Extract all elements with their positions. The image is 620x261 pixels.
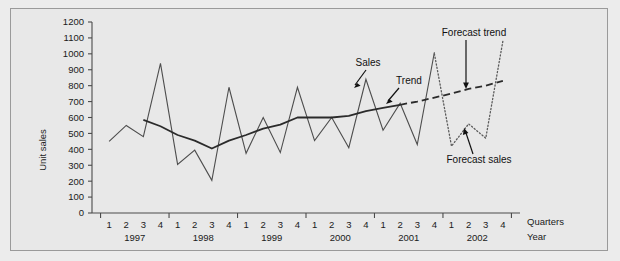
annotation-forecast-trend-label: Forecast trend — [442, 27, 506, 38]
x-axis-quarter-label: 3 — [278, 219, 283, 230]
x-axis-year-label: 2002 — [467, 232, 488, 243]
annotation-forecast-sales-arrow — [466, 133, 473, 154]
y-axis-tick-label: 500 — [68, 128, 84, 139]
x-axis-quarter-label: 4 — [363, 219, 368, 230]
annotation-trend-arrowhead — [386, 99, 393, 104]
y-axis-tick-label: 800 — [68, 80, 84, 91]
x-axis-title-quarters: Quarters — [527, 216, 564, 227]
x-axis-quarter-label: 4 — [158, 219, 163, 230]
x-axis-quarter-label: 1 — [380, 219, 385, 230]
annotation-sales-arrow — [355, 70, 366, 85]
x-axis-quarter-label: 1 — [175, 219, 180, 230]
x-axis-quarter-label: 1 — [106, 219, 111, 230]
y-axis-tick-label: 400 — [68, 144, 84, 155]
annotation-sales-arrowhead — [354, 83, 361, 88]
y-axis-tick-label: 200 — [68, 176, 84, 187]
x-axis-quarter-label: 2 — [398, 219, 403, 230]
x-axis-year-label: 2001 — [398, 232, 419, 243]
x-axis-quarter-label: 1 — [312, 219, 317, 230]
quarter-label-group: 123412341234123412341234 — [106, 219, 505, 230]
y-axis-tick-group: 0100200300400500600700800900100011001200 — [63, 16, 92, 218]
annotation-forecast-sales-label: Forecast sales — [446, 154, 511, 165]
x-axis-quarter-label: 4 — [500, 219, 505, 230]
x-axis-quarter-label: 2 — [261, 219, 266, 230]
x-axis-quarter-label: 2 — [329, 219, 334, 230]
x-axis-quarter-label: 2 — [124, 219, 129, 230]
annotation-trend-label: Trend — [396, 75, 422, 86]
y-axis-tick-label: 1000 — [63, 48, 84, 59]
x-axis-year-label: 2000 — [330, 232, 351, 243]
series-trend-line — [143, 105, 400, 149]
y-axis-tick-label: 300 — [68, 160, 84, 171]
chart-plot: 0100200300400500600700800900100011001200… — [0, 0, 620, 261]
x-axis-quarter-label: 4 — [295, 219, 300, 230]
x-axis-quarter-label: 2 — [466, 219, 471, 230]
y-axis-tick-label: 0 — [79, 207, 84, 218]
x-axis-year-label: 1997 — [124, 232, 145, 243]
series-forecast-sales-line — [434, 41, 502, 146]
x-axis-quarter-label: 4 — [432, 219, 437, 230]
y-axis-tick-label: 600 — [68, 112, 84, 123]
x-axis-title-year: Year — [527, 231, 546, 242]
x-axis-tick-group — [101, 213, 512, 218]
x-axis-quarter-label: 3 — [209, 219, 214, 230]
annotation-forecast-sales: Forecast sales — [446, 128, 511, 165]
chart-container: 0100200300400500600700800900100011001200… — [0, 0, 620, 261]
x-axis-quarter-label: 3 — [141, 219, 146, 230]
annotation-sales-label: Sales — [355, 57, 380, 68]
x-axis-quarter-label: 3 — [346, 219, 351, 230]
year-label-group: 199719981999200020012002 — [124, 232, 488, 243]
annotation-trend: Trend — [386, 75, 422, 104]
x-axis-quarter-label: 1 — [243, 219, 248, 230]
x-axis-year-label: 1998 — [193, 232, 214, 243]
annotation-forecast-sales-arrowhead — [463, 128, 469, 135]
x-axis-year-label: 1999 — [261, 232, 282, 243]
annotation-forecast-trend-arrowhead — [463, 83, 469, 89]
y-axis-tick-label: 900 — [68, 64, 84, 75]
y-axis-tick-label: 1200 — [63, 16, 84, 27]
x-axis-quarter-label: 4 — [226, 219, 231, 230]
x-axis-quarter-label: 3 — [483, 219, 488, 230]
y-axis-tick-label: 700 — [68, 96, 84, 107]
y-axis-title: Unit sales — [37, 129, 48, 171]
x-axis-quarter-label: 1 — [449, 219, 454, 230]
annotation-trend-arrow — [388, 88, 399, 101]
x-axis-quarter-label: 2 — [192, 219, 197, 230]
y-axis-tick-label: 1100 — [64, 32, 84, 43]
series-sales-line — [109, 52, 434, 180]
x-axis-quarter-label: 3 — [415, 219, 420, 230]
y-axis-tick-label: 100 — [68, 191, 84, 202]
